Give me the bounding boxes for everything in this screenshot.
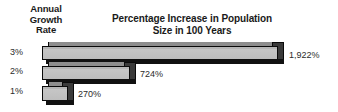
chart-title-line-2: Size in 100 Years [92,25,292,37]
category-label-3-percent: 3% [10,47,40,57]
axis-title-line-3: Rate [6,25,86,36]
bar-3-percent [42,42,284,64]
bar-2-percent [42,62,136,84]
bar-front-face [42,86,68,101]
bar-1-percent [42,82,74,105]
chart-title: Percentage Increase in Population Size i… [92,13,292,37]
axis-title-annual-growth-rate: Annual Growth Rate [6,4,86,36]
chart-title-line-1: Percentage Increase in Population [92,13,292,25]
value-label-2-percent: 724% [140,69,163,79]
bar-bottom-shadow [46,100,74,105]
category-label-2-percent: 2% [10,66,40,76]
value-label-1-percent: 270% [78,89,101,99]
category-label-1-percent: 1% [10,86,40,96]
population-growth-bar-chart: Annual Growth Rate Percentage Increase i… [0,0,338,112]
bar-front-face [42,66,130,80]
bar-front-face [42,46,278,60]
axis-title-line-1: Annual [6,4,86,15]
value-label-3-percent: 1,922% [289,50,320,60]
